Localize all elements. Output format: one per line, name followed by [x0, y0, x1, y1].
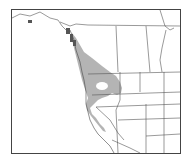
range-gap — [96, 82, 108, 90]
range-map — [0, 0, 191, 163]
